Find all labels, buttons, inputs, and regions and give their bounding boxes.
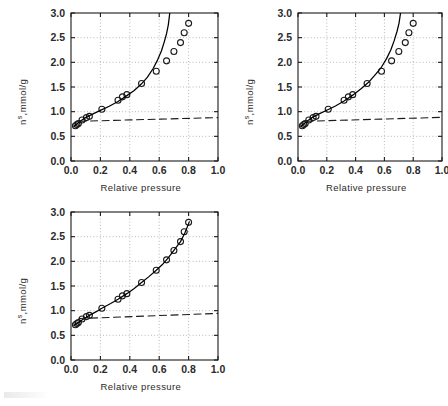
x-tick-label: 1.0	[211, 164, 226, 176]
x-tick-label: 0.6	[377, 164, 392, 176]
x-tick-label: 0.8	[406, 164, 421, 176]
monolayer-capacity-line	[306, 117, 442, 121]
y-tick-label: 0.0	[50, 354, 65, 366]
y-tick-label: 0.5	[50, 329, 65, 341]
data-point-marker	[406, 30, 412, 36]
gridlines	[298, 13, 442, 161]
gridlines	[71, 212, 218, 360]
plot-canvas: 0.00.20.40.60.81.00.00.51.01.52.02.53.0	[227, 0, 448, 199]
y-axis-label: ns,mmol/g	[16, 278, 28, 324]
plot-panel-top-left: 0.00.20.40.60.81.00.00.51.01.52.02.53.0R…	[0, 0, 227, 199]
y-axis-label-superscript: s	[16, 115, 23, 119]
tick-labels: 0.00.20.40.60.81.00.00.51.01.52.02.53.0	[277, 7, 448, 176]
data-point-marker	[181, 30, 187, 36]
y-tick-label: 2.0	[50, 255, 65, 267]
y-tick-label: 0.0	[50, 155, 65, 167]
data-point-marker	[402, 40, 408, 46]
y-axis-label-symbol: n	[17, 119, 28, 125]
series-group	[72, 219, 218, 327]
y-tick-label: 3.0	[50, 206, 65, 218]
y-axis-label: ns,mmol/g	[16, 79, 28, 125]
plot-panel-top-right: 0.00.20.40.60.81.00.00.51.01.52.02.53.0R…	[227, 0, 448, 199]
x-axis-label: Relative pressure	[326, 182, 407, 193]
monolayer-capacity-line	[79, 118, 218, 122]
plot-panel-bottom: 0.00.20.40.60.81.00.00.51.01.52.02.53.0R…	[0, 199, 227, 406]
y-tick-label: 1.5	[50, 81, 65, 93]
x-tick-label: 0.4	[122, 164, 137, 176]
y-axis-label-symbol: n	[244, 119, 255, 125]
y-axis-label-symbol: n	[17, 318, 28, 324]
monolayer-capacity-line	[79, 313, 218, 318]
x-tick-label: 1.0	[211, 363, 226, 375]
x-tick-label: 0.4	[348, 164, 363, 176]
x-tick-label: 0.6	[152, 363, 167, 375]
y-tick-label: 0.5	[277, 130, 292, 142]
y-tick-label: 1.0	[277, 105, 292, 117]
y-tick-label: 0.5	[50, 130, 65, 142]
data-point-marker	[164, 58, 170, 64]
gridlines	[71, 13, 218, 161]
y-axis-label: ns,mmol/g	[243, 79, 255, 125]
y-tick-label: 2.5	[277, 31, 292, 43]
y-tick-label: 2.0	[50, 56, 65, 68]
y-axis-label-units: ,mmol/g	[17, 278, 28, 315]
tick-labels: 0.00.20.40.60.81.00.00.51.01.52.02.53.0	[50, 7, 225, 176]
x-tick-label: 0.8	[181, 164, 196, 176]
data-point-marker	[178, 40, 184, 46]
y-tick-label: 1.0	[50, 105, 65, 117]
y-tick-label: 1.0	[50, 304, 65, 316]
x-tick-label: 0.6	[152, 164, 167, 176]
y-tick-label: 3.0	[277, 7, 292, 19]
y-tick-label: 2.5	[50, 230, 65, 242]
tick-labels: 0.00.20.40.60.81.00.00.51.01.52.02.53.0	[50, 206, 225, 375]
y-axis-label-superscript: s	[243, 115, 250, 119]
y-tick-label: 2.5	[50, 31, 65, 43]
x-axis-label: Relative pressure	[101, 182, 182, 193]
data-point-group	[72, 219, 191, 327]
y-tick-label: 1.5	[277, 81, 292, 93]
y-axis-label-superscript: s	[16, 314, 23, 318]
x-tick-label: 1.0	[435, 164, 448, 176]
y-tick-label: 0.0	[277, 155, 292, 167]
y-tick-label: 1.5	[50, 280, 65, 292]
data-point-marker	[389, 58, 395, 64]
x-tick-label: 0.2	[93, 164, 108, 176]
x-tick-label: 0.2	[319, 164, 334, 176]
fitted-curve	[74, 222, 189, 326]
fitted-curve	[74, 13, 170, 126]
x-tick-label: 0.0	[64, 164, 79, 176]
y-axis-label-units: ,mmol/g	[244, 79, 255, 116]
x-axis-label: Relative pressure	[101, 381, 182, 392]
data-point-marker	[171, 48, 177, 54]
x-tick-label: 0.0	[291, 164, 306, 176]
plot-canvas: 0.00.20.40.60.81.00.00.51.01.52.02.53.0	[0, 199, 227, 406]
x-tick-label: 0.2	[93, 363, 108, 375]
x-tick-label: 0.8	[181, 363, 196, 375]
fitted-curve	[301, 13, 401, 126]
y-tick-label: 3.0	[50, 7, 65, 19]
x-tick-label: 0.4	[122, 363, 137, 375]
y-tick-label: 2.0	[277, 56, 292, 68]
y-axis-label-units: ,mmol/g	[17, 79, 28, 116]
data-point-group	[72, 20, 191, 128]
plot-canvas: 0.00.20.40.60.81.00.00.51.01.52.02.53.0	[0, 0, 227, 199]
data-point-marker	[153, 68, 159, 74]
data-point-marker	[396, 48, 402, 54]
data-point-group	[299, 20, 416, 128]
x-tick-label: 0.0	[64, 363, 79, 375]
